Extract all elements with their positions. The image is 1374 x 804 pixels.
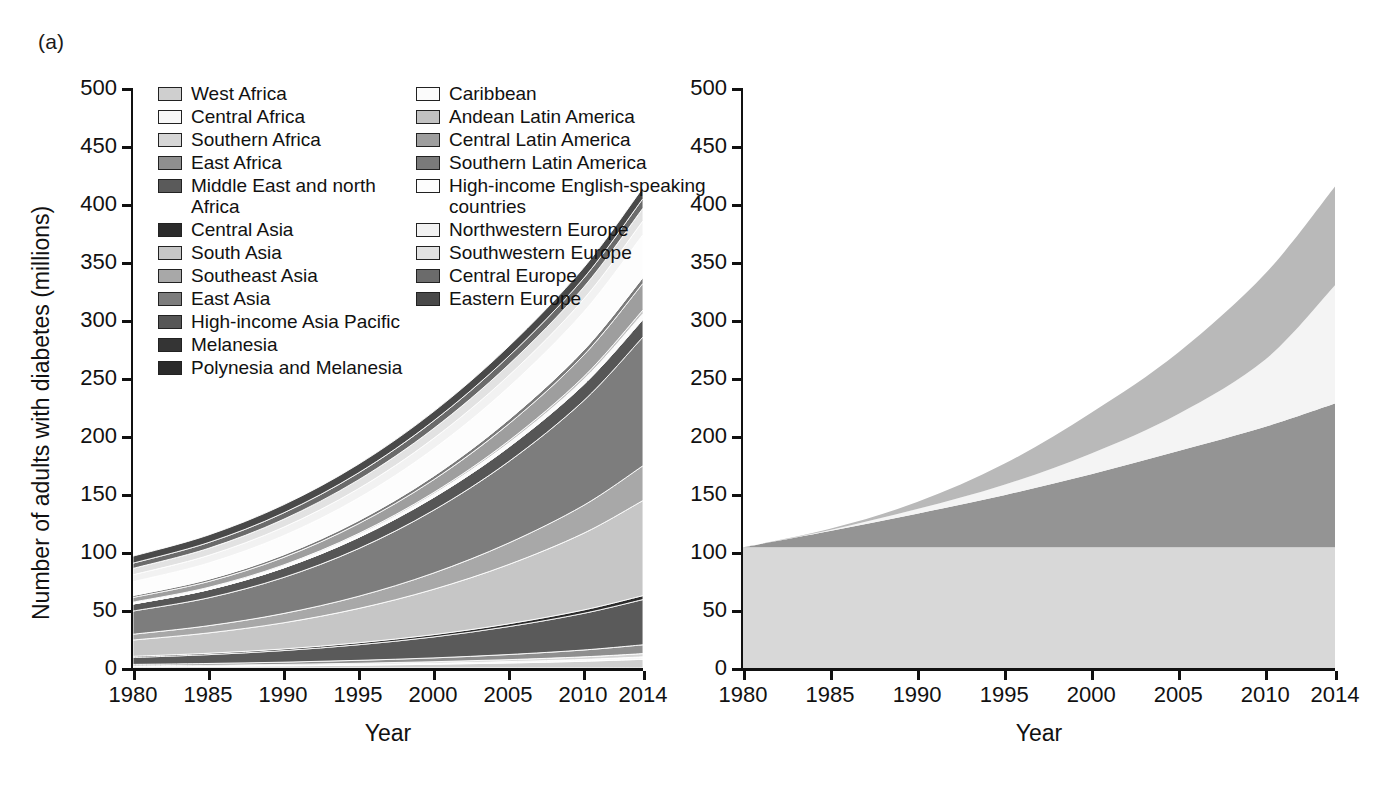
area-band — [743, 547, 1335, 668]
panel-a-legend-item[interactable]: Central Europe — [416, 266, 716, 287]
panel-a-legend-label: Central Asia — [191, 220, 293, 241]
panel-a-legend-item[interactable]: Eastern Europe — [416, 289, 716, 310]
y-tick-label: 350 — [690, 251, 727, 273]
legend-swatch-icon — [416, 223, 440, 237]
x-tick-mark — [433, 671, 436, 680]
panel-a-legend-item[interactable]: Southern Africa — [158, 130, 416, 151]
y-tick-label: 350 — [80, 251, 117, 273]
panel-a-legend-item[interactable]: Northwestern Europe — [416, 220, 716, 241]
legend-swatch-icon — [416, 246, 440, 260]
panel-a-legend-item[interactable]: East Asia — [158, 289, 416, 310]
y-tick-label: 500 — [690, 77, 727, 99]
x-tick-mark — [643, 671, 646, 680]
y-tick-label: 100 — [80, 541, 117, 563]
panel-a-legend-item[interactable]: Caribbean — [416, 84, 716, 105]
x-tick-mark — [208, 671, 211, 680]
x-tick-mark — [583, 671, 586, 680]
x-tick-label: 2010 — [559, 684, 608, 706]
x-tick-label: 1980 — [719, 684, 768, 706]
x-tick-label: 2014 — [619, 684, 668, 706]
y-tick-label: 50 — [703, 599, 727, 621]
legend-swatch-icon — [158, 223, 182, 237]
y-tick-label: 300 — [80, 309, 117, 331]
y-tick-label: 50 — [93, 599, 117, 621]
legend-swatch-icon — [416, 292, 440, 306]
panel-a-legend-item[interactable]: Southeast Asia — [158, 266, 416, 287]
legend-swatch-icon — [416, 156, 440, 170]
y-tick-label: 500 — [80, 77, 117, 99]
legend-swatch-icon — [158, 292, 182, 306]
panel-a-legend-item[interactable]: Melanesia — [158, 335, 416, 356]
y-tick-label: 450 — [80, 135, 117, 157]
y-tick-mark — [732, 610, 741, 613]
y-tick-mark — [732, 262, 741, 265]
panel-a-legend-item[interactable]: Middle East and north Africa — [158, 176, 416, 217]
y-tick-mark — [122, 436, 131, 439]
panel-a-legend-item[interactable]: Polynesia and Melanesia — [158, 358, 416, 379]
legend-swatch-icon — [158, 87, 182, 101]
x-tick-label: 1985 — [184, 684, 233, 706]
panel-a-legend-item[interactable]: Andean Latin America — [416, 107, 716, 128]
panel-a-legend-item[interactable]: Central Africa — [158, 107, 416, 128]
legend-swatch-icon — [158, 179, 182, 193]
y-tick-mark — [732, 436, 741, 439]
panel-a-legend-label: Andean Latin America — [449, 107, 635, 128]
x-tick-mark — [283, 671, 286, 680]
legend-swatch-icon — [158, 156, 182, 170]
x-tick-mark — [1265, 671, 1268, 680]
panel-a-legend-label: Northwestern Europe — [449, 220, 629, 241]
panel-a: (a) Number of adults with diabetes (mill… — [0, 0, 690, 804]
panel-a-legend-label: Caribbean — [449, 84, 537, 105]
panel-a-legend-label: Melanesia — [191, 335, 278, 356]
panel-a-legend-label: Southwestern Europe — [449, 243, 632, 264]
y-tick-label: 250 — [690, 367, 727, 389]
x-tick-mark — [743, 671, 746, 680]
y-tick-mark — [732, 204, 741, 207]
panel-a-legend-column-2: CaribbeanAndean Latin AmericaCentral Lat… — [416, 84, 716, 381]
x-tick-mark — [1004, 671, 1007, 680]
legend-swatch-icon — [416, 87, 440, 101]
y-tick-label: 400 — [80, 193, 117, 215]
panel-a-legend-item[interactable]: Southern Latin America — [416, 153, 716, 174]
panel-a-legend-item[interactable]: Central Asia — [158, 220, 416, 241]
x-tick-mark — [917, 671, 920, 680]
y-tick-mark — [732, 146, 741, 149]
panel-a-legend-label: West Africa — [191, 84, 287, 105]
panel-a-legend-label: Central Europe — [449, 266, 577, 287]
panel-a-legend-item[interactable]: South Asia — [158, 243, 416, 264]
panel-a-x-axis-title: Year — [365, 720, 411, 747]
panel-a-legend-label: Central Africa — [191, 107, 305, 128]
y-tick-mark — [732, 88, 741, 91]
panel-a-legend-item[interactable]: East Africa — [158, 153, 416, 174]
panel-a-legend-item[interactable]: High-income Asia Pacific — [158, 312, 416, 333]
panel-a-legend-column-1: West AfricaCentral AfricaSouthern Africa… — [158, 84, 416, 381]
x-tick-label: 1995 — [980, 684, 1029, 706]
legend-swatch-icon — [158, 133, 182, 147]
y-tick-label: 100 — [690, 541, 727, 563]
x-tick-label: 2000 — [409, 684, 458, 706]
x-tick-mark — [830, 671, 833, 680]
panel-b: (b) 050100150200250300350400450500 19801… — [690, 0, 1374, 804]
panel-a-legend-item[interactable]: Central Latin America — [416, 130, 716, 151]
x-tick-mark — [358, 671, 361, 680]
panel-a-legend-label: Polynesia and Melanesia — [191, 358, 402, 379]
panel-a-legend-item[interactable]: West Africa — [158, 84, 416, 105]
x-tick-mark — [508, 671, 511, 680]
y-tick-mark — [122, 668, 131, 671]
y-tick-label: 150 — [690, 483, 727, 505]
legend-swatch-icon — [416, 269, 440, 283]
panel-a-y-axis-title: Number of adults with diabetes (millions… — [28, 206, 55, 620]
y-tick-label: 200 — [690, 425, 727, 447]
y-tick-label: 0 — [715, 657, 727, 679]
panel-b-stacked-areas — [743, 88, 1335, 668]
panel-a-legend-item[interactable]: Southwestern Europe — [416, 243, 716, 264]
y-tick-mark — [732, 552, 741, 555]
panel-a-legend-label: South Asia — [191, 243, 282, 264]
x-tick-label: 2014 — [1311, 684, 1360, 706]
y-tick-mark — [122, 610, 131, 613]
legend-swatch-icon — [158, 269, 182, 283]
legend-swatch-icon — [158, 315, 182, 329]
x-tick-mark — [1335, 671, 1338, 680]
y-tick-mark — [122, 88, 131, 91]
panel-a-legend-item[interactable]: High-income English-speaking countries — [416, 176, 716, 217]
